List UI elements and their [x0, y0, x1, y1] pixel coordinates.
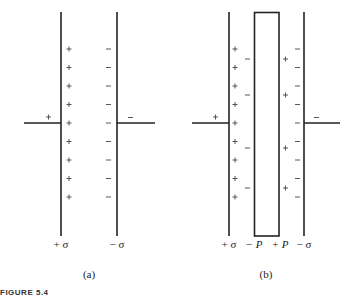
panel-b: [192, 12, 340, 236]
left-plate-charges: [233, 47, 238, 200]
dielectric-right-charges: [283, 57, 288, 191]
panel-b-right-plate-label: − σ: [297, 238, 312, 250]
panel-a-left-plate-label: + σ: [54, 238, 69, 250]
dielectric-slab: [255, 13, 280, 237]
left-lead-plus-icon: [46, 115, 51, 120]
panel-b-dielectric-right-label: + P: [272, 238, 289, 250]
panel-b-left-plate-label: + σ: [222, 238, 237, 250]
right-plate-charges: [106, 49, 111, 197]
dielectric-left-charges: [245, 59, 250, 188]
panel-a-caption: (a): [83, 268, 95, 280]
panel-b-caption: (b): [260, 268, 273, 280]
left-plate-charges: [67, 47, 72, 200]
panel-a-right-plate-label: − σ: [110, 238, 125, 250]
panel-a: [24, 12, 155, 236]
left-lead-plus-icon: [213, 115, 218, 120]
panel-b-dielectric-left-label: − P: [246, 238, 263, 250]
right-plate-charges: [295, 49, 300, 197]
figure-caption-strip: FIGURE 5.4: [0, 288, 49, 297]
